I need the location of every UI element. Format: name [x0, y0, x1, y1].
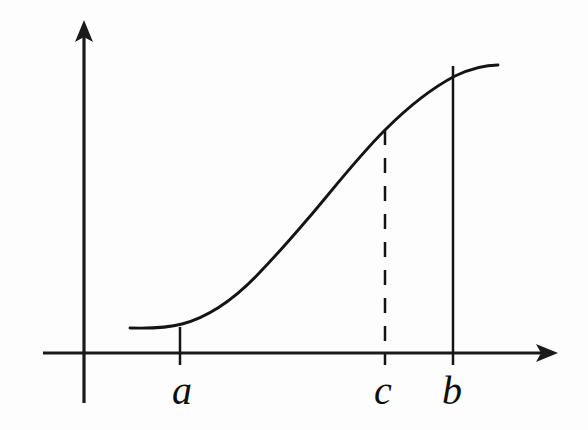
- x-axis-label-b: b: [429, 371, 475, 411]
- function-curve: [130, 65, 498, 328]
- figure-canvas: a c b: [0, 0, 588, 430]
- x-axis-label-c: c: [360, 371, 406, 411]
- x-axis-label-a: a: [159, 371, 205, 411]
- function-graph-svg: [0, 0, 588, 430]
